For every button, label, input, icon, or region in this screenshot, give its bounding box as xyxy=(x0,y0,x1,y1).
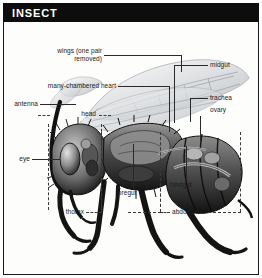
label-wings: wings (one pair removed) xyxy=(24,47,102,62)
label-trachea: trachea xyxy=(210,94,252,102)
figure-title-bar: INSECT xyxy=(3,3,259,22)
leader-foregut xyxy=(133,144,134,188)
label-antenna: antenna xyxy=(8,100,38,108)
leader-wings-drop xyxy=(181,55,182,72)
label-eye: eye xyxy=(8,155,30,163)
leader-midgut xyxy=(174,65,208,66)
bracket-abdomen-rule-left xyxy=(160,212,170,213)
bracket-thorax-left xyxy=(101,132,102,212)
leader-antenna xyxy=(40,104,76,105)
bracket-abdomen-left xyxy=(160,132,161,212)
bracket-thorax-rule-right xyxy=(128,212,161,213)
insect-anatomy-figure: INSECT xyxy=(0,0,262,278)
bracket-abdomen-rule-right xyxy=(208,212,241,213)
label-abdomen: abdomen xyxy=(172,208,212,216)
leader-trachea xyxy=(190,98,208,99)
leader-heart-drop xyxy=(169,86,170,132)
leader-ovary xyxy=(200,116,201,142)
page-title: INSECT xyxy=(12,7,58,19)
label-foregut: foregut xyxy=(116,189,152,197)
leader-hindgut xyxy=(186,146,187,180)
head-art xyxy=(47,117,107,223)
bracket-abdomen-right xyxy=(240,132,241,212)
leader-midgut-drop xyxy=(174,65,175,123)
illustration-plate: wings (one pair removed) many-chambered … xyxy=(8,26,254,271)
leader-heart xyxy=(118,86,170,87)
label-head: head xyxy=(56,110,96,118)
bracket-head-tick-left xyxy=(38,115,50,116)
leader-trachea-drop xyxy=(190,98,191,122)
bracket-head-tick-right xyxy=(99,115,111,116)
bracket-thorax-rule-left xyxy=(86,212,102,213)
label-heart: many-chambered heart xyxy=(24,82,116,90)
label-hindgut: hindgut xyxy=(170,181,206,189)
label-midgut: midgut xyxy=(210,61,252,69)
label-thorax: thorax xyxy=(52,208,84,216)
leader-wings xyxy=(104,55,182,56)
label-ovary: ovary xyxy=(210,106,252,114)
leader-eye xyxy=(32,159,60,160)
bracket-head-left xyxy=(48,124,49,210)
